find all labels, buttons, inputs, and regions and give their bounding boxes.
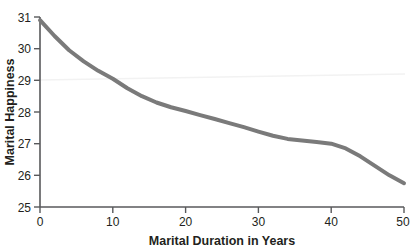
y-tick-label-29: 29	[18, 74, 32, 88]
x-axis-title: Marital Duration in Years	[149, 234, 295, 248]
y-tick-label-28: 28	[18, 106, 32, 120]
y-tick-label-30: 30	[18, 42, 32, 56]
y-tick-label-31: 31	[18, 11, 32, 25]
x-tick-label-10: 10	[106, 215, 120, 229]
line-chart: 31 30 29 28 27 26 25 0 10 20 30 40 50 Ma…	[0, 0, 410, 251]
x-tick-label-50: 50	[396, 215, 410, 229]
x-tick-label-40: 40	[325, 215, 339, 229]
y-tick-label-25: 25	[18, 201, 32, 215]
chart-figure: 31 30 29 28 27 26 25 0 10 20 30 40 50 Ma…	[0, 0, 410, 251]
chart-background	[0, 0, 410, 251]
y-axis-title: Marital Happiness	[3, 58, 17, 165]
x-tick-label-30: 30	[252, 215, 266, 229]
y-tick-label-26: 26	[18, 169, 32, 183]
x-tick-label-0: 0	[37, 215, 44, 229]
y-tick-label-27: 27	[18, 137, 32, 151]
x-tick-label-20: 20	[179, 215, 193, 229]
